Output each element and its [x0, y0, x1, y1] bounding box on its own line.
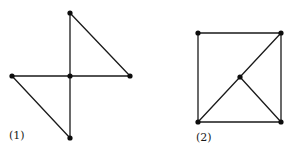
graph-diagram-canvas: (1) (2) [0, 0, 292, 149]
vertex-left [9, 73, 14, 78]
edge-bottom-left-center [198, 77, 240, 122]
vertex-bottom [67, 135, 72, 140]
vertex-bottom-right [278, 119, 283, 124]
vertex-center [237, 74, 242, 79]
vertex-center [67, 73, 72, 78]
vertex-top-left [195, 30, 200, 35]
figure-1-graph: (1) [9, 10, 133, 142]
figure-2-label: (2) [196, 131, 212, 144]
vertex-right [127, 73, 132, 78]
vertex-bottom-left [195, 119, 200, 124]
vertex-top [67, 10, 72, 15]
figure-1-label: (1) [9, 129, 25, 142]
figure-2-graph: (2) [195, 30, 283, 144]
vertex-top-right [278, 30, 283, 35]
edge-top-right [70, 13, 130, 76]
edge-center-bottom-right [240, 77, 281, 122]
edge-center-top-right [240, 33, 281, 77]
